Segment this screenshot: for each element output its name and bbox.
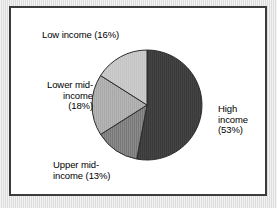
pie-chart: Low income (16%) Lower mid- income (18%)… xyxy=(11,8,265,194)
pie-label-high-income: High income (53%) xyxy=(218,104,248,136)
pie-label-low-income: Low income (16%) xyxy=(42,30,119,41)
pie-label-upper-mid-income: Upper mid- income (13%) xyxy=(53,160,110,181)
pie-label-lower-mid-income: Lower mid- income (18%) xyxy=(25,80,93,112)
figure-panel: Low income (16%) Lower mid- income (18%)… xyxy=(9,6,267,196)
pie-slice-group xyxy=(92,50,202,160)
